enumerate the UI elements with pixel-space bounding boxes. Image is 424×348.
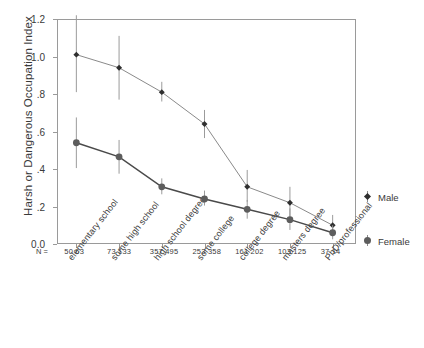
female-marker-icon <box>367 235 368 246</box>
y-axis-tick-label: 1.0 <box>31 51 45 62</box>
n-row-label: N = <box>36 247 48 256</box>
y-axis-tick-group: 1.21.0.8.6.4.20.0 <box>0 0 55 264</box>
y-axis-tick-label: .4 <box>37 164 45 175</box>
y-axis-tick-label: 1.2 <box>31 14 45 25</box>
male-marker-icon <box>367 191 368 202</box>
chart-root: Harsh or Dangerous Occupation Index 1.21… <box>0 0 424 348</box>
y-axis-tick-label: .8 <box>37 89 45 100</box>
y-axis-tick-label: .2 <box>37 201 45 212</box>
y-axis-tick-mark <box>53 244 57 245</box>
legend-label-female: Female <box>378 236 410 247</box>
legend-label-male: Male <box>378 192 399 203</box>
y-axis-tick-label: .6 <box>37 126 45 137</box>
